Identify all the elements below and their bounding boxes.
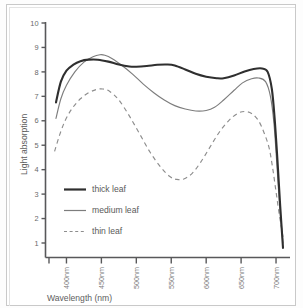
y-axis-tick-label: 3 <box>34 190 38 199</box>
y-axis-tick-label: 7 <box>34 92 38 101</box>
x-axis-ticks: 400nm450nm500nm550nm600nm650nm700nm <box>49 258 281 289</box>
x-axis-tick-label: 500nm <box>132 267 141 289</box>
legend-label-thick-leaf: thick leaf <box>92 184 127 194</box>
x-axis-tick-label: 700nm <box>272 267 281 289</box>
x-axis-tick-label: 450nm <box>97 267 106 289</box>
x-axis-title: Wavelength (nm) <box>47 293 112 303</box>
y-axis-title: Light absorption <box>19 114 29 175</box>
light-absorption-chart: 12345678910 400nm450nm500nm550nm600nm650… <box>0 0 303 308</box>
x-axis-tick-label: 400nm <box>62 267 71 289</box>
x-axis-tick-label: 550nm <box>167 267 176 289</box>
y-axis-tick-label: 1 <box>34 239 38 248</box>
y-axis-tick-label: 10 <box>30 19 38 28</box>
x-axis-tick-label: 600nm <box>202 267 211 289</box>
y-axis-tick-label: 2 <box>34 214 38 223</box>
legend-label-thin-leaf: thin leaf <box>92 226 123 236</box>
series-line-medium-leaf <box>56 55 283 243</box>
legend: thick leaf medium leaf thin leaf <box>64 184 139 236</box>
series-line-thin-leaf <box>55 89 283 237</box>
y-axis-tick-label: 9 <box>34 43 38 52</box>
axes <box>46 22 291 258</box>
y-axis-tick-label: 6 <box>34 116 38 125</box>
y-axis-tick-label: 4 <box>34 165 38 174</box>
data-series-layer <box>55 55 283 248</box>
legend-label-medium-leaf: medium leaf <box>92 205 139 215</box>
y-axis-ticks: 12345678910 <box>30 19 45 248</box>
y-axis-tick-label: 8 <box>34 68 38 77</box>
series-line-thick-leaf <box>56 59 283 247</box>
figure-container: 12345678910 400nm450nm500nm550nm600nm650… <box>0 0 303 308</box>
x-axis-tick-label: 650nm <box>237 267 246 289</box>
y-axis-tick-label: 5 <box>34 141 38 150</box>
